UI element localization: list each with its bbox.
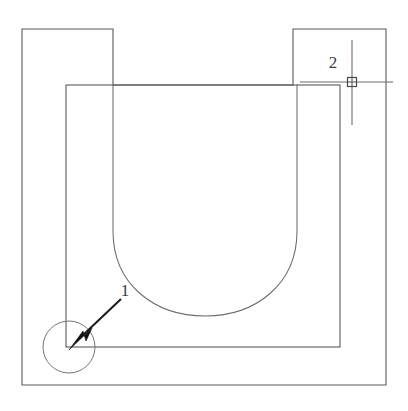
callout-label-1: 1 (121, 281, 130, 300)
technical-drawing-canvas: 2 1 (0, 0, 408, 411)
drawing-background (0, 0, 408, 411)
callout-label-2: 2 (329, 53, 338, 72)
